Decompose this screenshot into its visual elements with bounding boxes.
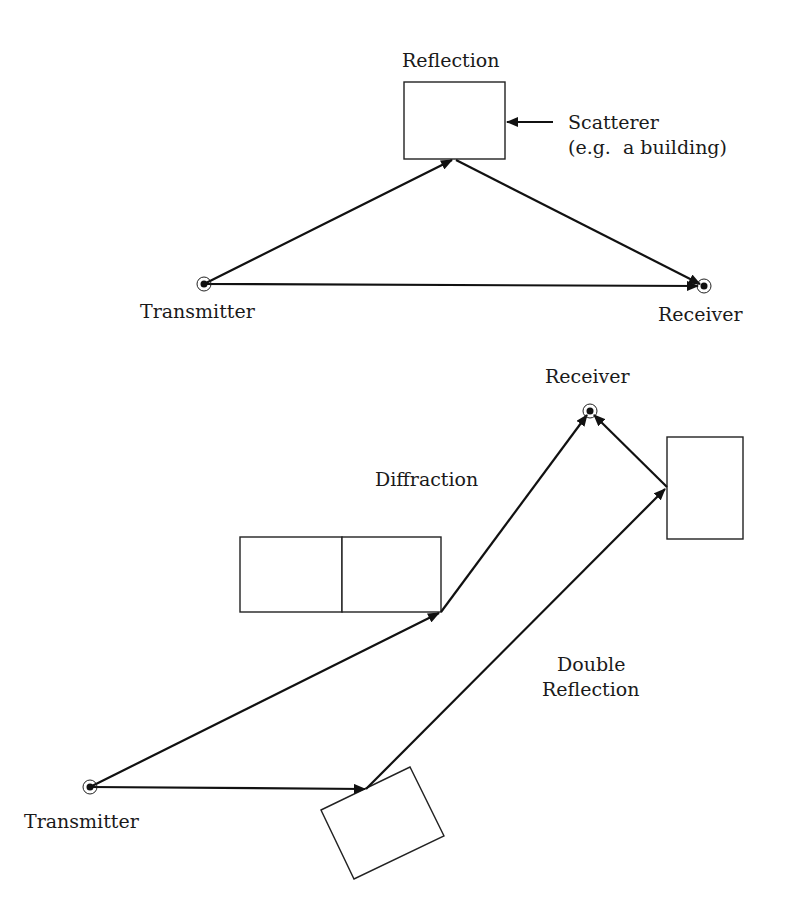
ray-second-reflection-to-rx (594, 415, 667, 487)
ray-tx-to-reflection (204, 160, 452, 284)
diffraction-building-left (240, 537, 342, 612)
ray-tx-to-diffraction-edge (90, 613, 439, 787)
reflection-scenario: Reflection Scatterer (e.g. a building) T… (140, 49, 743, 325)
scatterer-label: Scatterer (568, 111, 660, 133)
bottom-receiver-node-icon (583, 404, 597, 418)
top-receiver-label: Receiver (658, 303, 743, 325)
diffraction-double-reflection-scenario: Receiver Diffraction Double Reflection T… (24, 365, 743, 879)
ray-direct-path (204, 284, 698, 286)
ray-diffraction-to-rx (441, 415, 587, 612)
ray-first-to-second-reflection (366, 489, 665, 789)
second-reflector-building (667, 437, 743, 539)
diffraction-building-right (342, 537, 441, 612)
scatterer-example-label: (e.g. a building) (568, 136, 727, 158)
receiver-node-icon (697, 279, 711, 293)
double-reflection-label-line2: Reflection (542, 678, 640, 700)
reflection-label: Reflection (402, 49, 500, 71)
diagram-svg: Reflection Scatterer (e.g. a building) T… (0, 0, 788, 911)
ray-tx-to-first-reflection (90, 787, 365, 789)
double-reflection-label-line1: Double (557, 653, 625, 675)
first-reflector-building (321, 767, 444, 879)
scatterer-building (404, 82, 505, 159)
top-transmitter-label: Transmitter (140, 300, 256, 322)
multipath-diagram: Reflection Scatterer (e.g. a building) T… (0, 0, 788, 911)
diffraction-label: Diffraction (375, 468, 478, 490)
bottom-receiver-label: Receiver (545, 365, 630, 387)
ray-reflection-to-rx (456, 160, 700, 284)
bottom-transmitter-label: Transmitter (24, 810, 140, 832)
